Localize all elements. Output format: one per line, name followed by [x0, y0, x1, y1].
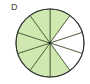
fraction-circle	[0, 0, 90, 84]
center-dot	[49, 42, 51, 44]
